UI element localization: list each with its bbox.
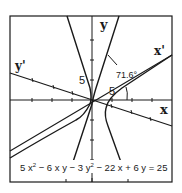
x-prime-label: x': [154, 44, 165, 58]
equation-label: 5 x2 − 6 x y − 3 y2 − 22 x + 6 y = 25: [20, 162, 167, 173]
angle-arc: [126, 87, 127, 100]
x-axis-label: x: [160, 102, 168, 117]
angle-label: 71.6°: [116, 70, 138, 80]
y-prime-label: y': [14, 59, 26, 73]
y-axis-label: y: [99, 17, 108, 32]
tick-label-y-5: 5: [79, 74, 85, 86]
conic-diagram: y x x' y' 5 5 71.6° 5 x2 − 6 x y − 3 y2 …: [0, 0, 182, 193]
hyperbola-branch-left: [10, 16, 91, 158]
angle-leader: [108, 55, 117, 65]
frame-ticks: [66, 178, 128, 182]
tick-label-x-5: 5: [109, 85, 115, 97]
